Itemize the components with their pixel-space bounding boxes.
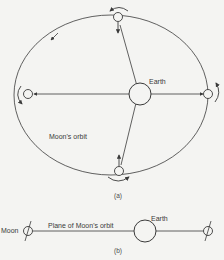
moon-left-rotation-arrow-icon [18,86,22,104]
moon-right-circle [204,90,213,99]
moon-bottom-rotation-arrow-icon [108,177,129,181]
moon-top-circle [114,13,123,22]
earth-label: Earth [149,78,166,85]
earth-b-circle [134,220,156,242]
moon-label: Moon [1,227,19,234]
caption-a: (a) [114,192,122,200]
figure-b: Moon Plane of Moon's orbit Earth (b) [1,215,213,255]
figure-a: Earth Moon's orbit (a) [14,8,219,201]
earth-b-label: Earth [151,215,168,222]
moon-orbit-ellipse [14,15,208,175]
moon-top-rotation-arrow-icon [110,8,128,12]
moon-bottom-circle [115,167,124,176]
orbit-direction-arrow-icon [51,33,58,40]
moon-left-circle [24,90,33,99]
earth-circle [129,83,151,105]
moons-orbit-label: Moon's orbit [49,133,87,140]
earth-to-top-moon-line [120,25,137,86]
moon-orbit-diagram: Earth Moon's orbit (a) Moon Plane of Moo… [0,0,224,260]
moon-right-rotation-arrow-icon [215,83,219,102]
plane-of-orbit-label: Plane of Moon's orbit [48,222,114,229]
caption-b: (b) [114,247,122,255]
earth-to-bottom-moon-line [121,103,136,165]
